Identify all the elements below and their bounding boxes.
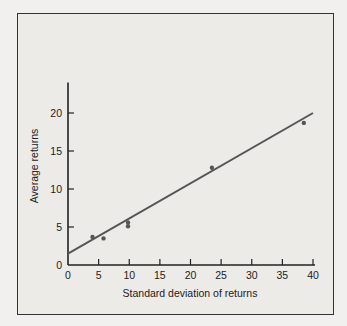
x-tick-label: 0	[65, 269, 71, 281]
regression-line	[68, 113, 313, 254]
scatter-chart: 051015202530354005101520 Standard deviat…	[0, 0, 347, 326]
y-tick-label: 10	[50, 183, 62, 195]
x-tick-label: 10	[123, 269, 135, 281]
y-axis-label: Average returns	[28, 129, 40, 204]
data-point	[126, 220, 130, 224]
y-tick-label: 0	[56, 259, 62, 271]
data-point	[90, 235, 94, 239]
y-tick-label: 5	[56, 221, 62, 233]
data-point	[302, 121, 306, 125]
x-tick-label: 25	[215, 269, 227, 281]
x-tick-label: 20	[185, 269, 197, 281]
x-axis-label: Standard deviation of returns	[123, 287, 258, 299]
y-tick-label: 20	[50, 107, 62, 119]
x-tick-label: 35	[277, 269, 289, 281]
x-tick-label: 30	[246, 269, 258, 281]
x-tick-label: 5	[96, 269, 102, 281]
x-tick-label: 15	[154, 269, 166, 281]
x-tick-label: 40	[307, 269, 319, 281]
data-point	[210, 166, 214, 170]
y-tick-label: 15	[50, 145, 62, 157]
data-point	[101, 236, 105, 240]
data-point	[126, 224, 130, 228]
